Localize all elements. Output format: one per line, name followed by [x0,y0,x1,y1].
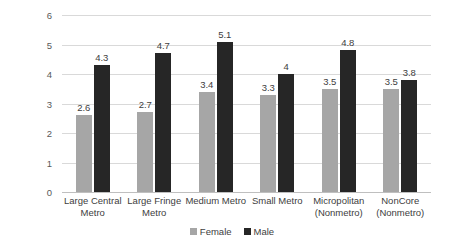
bar-male [278,74,294,192]
y-tick-label: 4 [47,69,52,80]
legend-swatch-icon [190,228,197,235]
bar-female [76,115,92,192]
y-tick-label: 2 [47,128,52,139]
x-label-line: (Nonmetro) [370,207,432,219]
bar-value-label: 3.8 [403,67,416,78]
x-axis-category-label: Medium Metro [185,195,247,207]
plot-area: 2.64.32.74.73.45.13.343.54.83.53.8 [62,15,431,192]
legend-label: Female [200,226,232,237]
bar-female [260,95,276,192]
y-tick-label: 5 [47,39,52,50]
bar-female [322,89,338,192]
bar-group: 3.45.1 [185,15,247,192]
bar-male [155,53,171,192]
x-axis-category-label: Large FringeMetro [124,195,186,219]
legend-label: Male [254,226,275,237]
legend-item-female[interactable]: Female [190,226,232,237]
bar-group: 3.54.8 [308,15,370,192]
y-tick-label: 1 [47,157,52,168]
y-tick-label: 6 [47,10,52,21]
bar-value-label: 4 [284,61,289,72]
x-axis-category-label: Small Metro [247,195,309,207]
x-label-line: Metro [124,207,186,219]
bar-female [383,89,399,192]
bar-value-label: 4.3 [95,52,108,63]
bar-value-label: 3.4 [200,79,213,90]
bar-group: 2.74.7 [124,15,186,192]
bar-value-label: 2.6 [77,102,90,113]
x-label-line: Metro [62,207,124,219]
bar-male [94,65,110,192]
x-label-line: NonCore [370,195,432,207]
bar-value-label: 4.8 [341,37,354,48]
x-label-line: Large Fringe [124,195,186,207]
bar-value-label: 5.1 [218,29,231,40]
x-axis-labels: Large CentralMetroLarge FringeMetroMediu… [62,195,431,225]
bar-value-label: 3.5 [385,76,398,87]
x-label-line: Medium Metro [185,195,247,207]
x-axis-category-label: Micropolitan(Nonmetro) [308,195,370,219]
legend-swatch-icon [244,228,251,235]
bar-male [401,80,417,192]
y-tick-label: 3 [47,98,52,109]
bar-group: 3.34 [247,15,309,192]
bar-value-label: 2.7 [139,99,152,110]
y-axis-ticks: 0123456 [0,15,58,192]
bar-female [199,92,215,192]
bar-value-label: 3.5 [323,76,336,87]
bar-value-label: 3.3 [262,82,275,93]
bar-chart: Death Rate Per 100,000 0123456 2.64.32.7… [0,0,464,248]
y-tick-label: 0 [47,187,52,198]
legend: FemaleMale [0,226,464,237]
x-label-line: Small Metro [247,195,309,207]
bar-male [340,50,356,192]
x-label-line: (Nonmetro) [308,207,370,219]
bar-female [137,112,153,192]
legend-item-male[interactable]: Male [244,226,275,237]
x-axis-category-label: NonCore(Nonmetro) [370,195,432,219]
x-axis-category-label: Large CentralMetro [62,195,124,219]
bar-groups: 2.64.32.74.73.45.13.343.54.83.53.8 [62,15,431,192]
bar-group: 2.64.3 [62,15,124,192]
x-label-line: Large Central [62,195,124,207]
x-axis-line [62,192,431,193]
bar-value-label: 4.7 [157,40,170,51]
bar-group: 3.53.8 [370,15,432,192]
bar-male [217,42,233,192]
x-label-line: Micropolitan [308,195,370,207]
